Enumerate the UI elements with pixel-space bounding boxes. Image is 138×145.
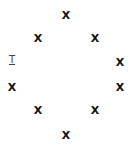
x-mark-bottom: X — [62, 130, 70, 141]
x-mark-top: X — [62, 10, 70, 21]
x-mark-lower-right: X — [91, 105, 99, 116]
x-mark-left: X — [8, 82, 16, 93]
text-cursor-icon: T — [9, 55, 15, 65]
x-mark-upper-left: X — [34, 33, 42, 44]
x-mark-right-upper: X — [116, 57, 124, 68]
x-mark-lower-left: X — [34, 105, 42, 116]
x-mark-upper-right: X — [91, 33, 99, 44]
x-mark-right-lower: X — [116, 82, 124, 93]
